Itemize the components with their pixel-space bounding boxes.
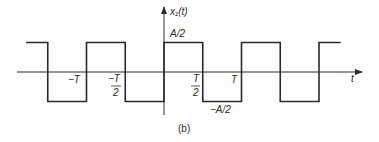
tick-label-T: T [231, 74, 238, 85]
tick-label-neg-T-half-denominator: 2 [112, 87, 119, 98]
square-wave-diagram: x₁(t) A/2 −A/2 t −T −T 2 T 2 T (b) [0, 0, 379, 142]
x-axis-label: t [351, 73, 355, 84]
tick-label-T-half-numerator: T [193, 73, 200, 84]
tick-label-T-half-denominator: 2 [192, 87, 199, 98]
signal-label: x₁(t) [169, 6, 188, 17]
tick-label-neg-T-half-numerator: −T [108, 73, 121, 84]
figure-caption: (b) [178, 123, 190, 134]
tick-label-T-half: T 2 [191, 73, 200, 98]
tick-label-neg-T-half: −T 2 [108, 73, 121, 98]
amplitude-high-label: A/2 [169, 28, 185, 39]
tick-label-neg-T: −T [68, 74, 81, 85]
amplitude-low-label: −A/2 [210, 104, 231, 115]
